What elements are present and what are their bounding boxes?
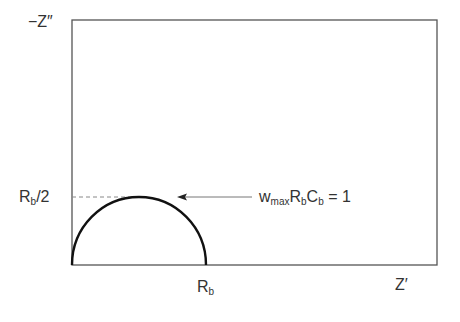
semicircle-curve	[72, 197, 206, 265]
resonance-annotation: wmaxRbCb = 1	[259, 188, 351, 207]
y-axis-label: −Z″	[28, 13, 53, 31]
nyquist-plot	[0, 0, 460, 322]
plot-frame	[72, 20, 437, 265]
x-axis-label: Z′	[395, 276, 408, 294]
y-tick-rb-half: Rb/2	[19, 188, 49, 207]
x-tick-rb: Rb	[197, 278, 214, 297]
